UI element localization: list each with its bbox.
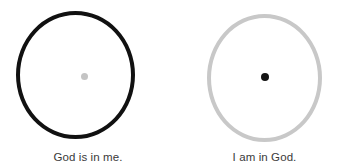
caption-god-is-in-me: God is in me. xyxy=(0,150,176,164)
circle-self-boundary xyxy=(16,11,135,139)
diagram-canvas: God is in me. I am in God. xyxy=(0,0,353,168)
panel-i-am-in-god: I am in God. xyxy=(176,0,353,168)
caption-i-am-in-god: I am in God. xyxy=(176,150,353,164)
panel-god-is-in-me: God is in me. xyxy=(0,0,176,168)
center-dot-god xyxy=(81,73,88,80)
center-dot-self xyxy=(261,73,269,81)
